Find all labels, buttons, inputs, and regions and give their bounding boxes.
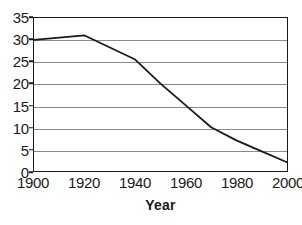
y-axis-tick-label: 30	[0, 32, 29, 47]
y-axis-tick-labels: 05101520253035	[0, 17, 29, 172]
series-polyline	[34, 35, 287, 162]
line-chart: 05101520253035 190019201940196019802000 …	[0, 0, 302, 225]
x-axis-tick-label: 1980	[221, 174, 253, 192]
x-axis-title: Year	[33, 197, 288, 213]
y-axis-tick-label: 5	[0, 142, 29, 157]
y-axis-tick-label: 25	[0, 54, 29, 69]
x-axis-tick-label: 1940	[119, 174, 151, 192]
x-axis-tick-labels: 190019201940196019802000	[0, 174, 302, 194]
plot-area	[33, 17, 288, 172]
y-axis-tick-label: 20	[0, 76, 29, 91]
x-axis-tick-label: 1920	[68, 174, 100, 192]
x-axis-tick-label: 1960	[170, 174, 202, 192]
x-axis-tick-label: 1900	[17, 174, 49, 192]
x-axis-tick-label: 2000	[272, 174, 302, 192]
y-axis-tick-label: 35	[0, 10, 29, 25]
y-axis-tick-label: 10	[0, 120, 29, 135]
y-axis-tick-label: 15	[0, 98, 29, 113]
data-series-line	[34, 18, 287, 171]
